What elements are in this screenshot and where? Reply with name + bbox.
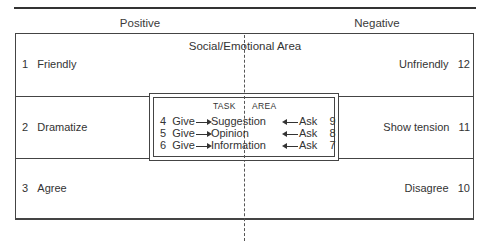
row-divider-right-2 [339,158,474,159]
task-ask-opinion: Ask 8 [283,127,336,139]
task-row-suggestion: 4 GiveSuggestion [160,115,266,127]
task-ask-information: Ask 7 [283,139,336,151]
top-rule [14,7,476,9]
task-ask-suggestion: Ask 9 [283,115,336,127]
arrow-left-icon [284,122,298,123]
category-unfriendly: Unfriendly 12 [399,58,470,70]
task-title-left: TASK [213,101,236,111]
task-row-opinion: 5 GiveOpinion [160,127,249,139]
arrow-left-icon [284,134,298,135]
arrow-right-icon [196,146,210,147]
category-disagree: Disagree 10 [405,182,470,194]
row-divider-left-1 [15,96,149,97]
category-friendly: 1 Friendly [22,58,76,70]
category-dramatize: 2 Dramatize [22,121,87,133]
positive-header: Positive [40,17,240,29]
social-emotional-title: Social/Emotional Area [175,40,315,52]
category-agree: 3 Agree [22,182,67,194]
task-row-information: 6 GiveInformation [160,139,266,151]
arrow-right-icon [196,134,210,135]
task-title-right: AREA [252,101,276,111]
negative-header: Negative [277,17,477,29]
arrow-right-icon [196,122,210,123]
arrow-left-icon [284,146,298,147]
category-show-tension: Show tension 11 [383,121,470,133]
row-divider-left-2 [15,158,149,159]
row-divider-right-1 [339,96,474,97]
